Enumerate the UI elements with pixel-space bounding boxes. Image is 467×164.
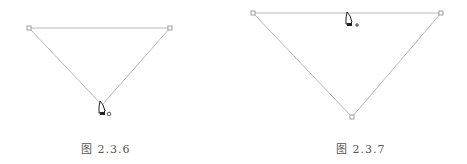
anchor-point[interactable] (350, 115, 354, 119)
pen-tool-close-path-icon (99, 101, 111, 116)
triangle-path (29, 28, 170, 105)
figure-2-3-6 (27, 26, 172, 116)
anchor-point[interactable] (27, 26, 31, 30)
figure-caption: 图 2.3.7 (336, 140, 386, 156)
anchor-point[interactable] (439, 11, 443, 15)
figures-canvas (0, 0, 467, 164)
triangle-path (253, 13, 441, 117)
figure-2-3-7 (251, 11, 443, 119)
anchor-point[interactable] (168, 26, 172, 30)
anchor-point[interactable] (251, 11, 255, 15)
pen-tool-add-anchor-icon (346, 12, 359, 27)
figure-caption: 图 2.3.6 (81, 140, 131, 156)
